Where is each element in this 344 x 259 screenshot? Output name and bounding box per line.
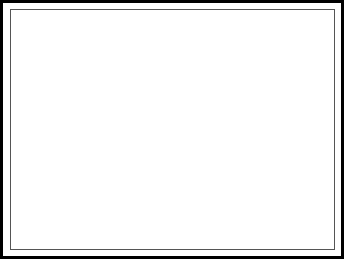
figure-frame: [0, 0, 344, 259]
canvas-background: [0, 0, 344, 259]
network-diagram-canvas: [0, 0, 344, 259]
